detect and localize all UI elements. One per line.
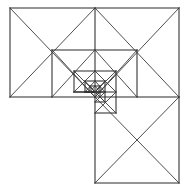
- recursive-squares-diagram: [0, 0, 189, 193]
- geometric-figure-canvas: [0, 0, 189, 193]
